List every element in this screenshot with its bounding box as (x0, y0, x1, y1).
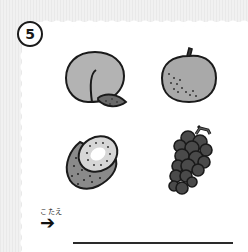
kiwi-icon[interactable] (60, 132, 122, 194)
arrow-right-icon: ➔ (40, 214, 55, 232)
question-number-badge: 5 (17, 21, 43, 47)
pear-icon[interactable] (158, 46, 220, 106)
question-number: 5 (25, 26, 35, 42)
worksheet-page: 5 (0, 0, 248, 252)
paper-edge-left (16, 50, 28, 252)
grapes-icon[interactable] (162, 124, 224, 198)
peach-icon[interactable] (62, 48, 128, 114)
answer-input-line[interactable] (73, 242, 233, 244)
paper-edge-top (40, 16, 248, 28)
